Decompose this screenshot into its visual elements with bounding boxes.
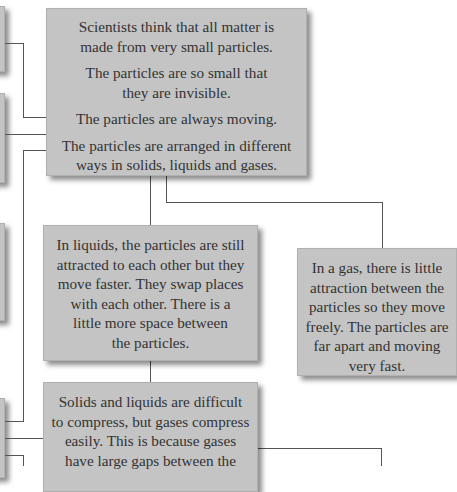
connector-main-to-left — [23, 150, 24, 422]
text-line: made from very small particles. — [80, 38, 273, 55]
connector-compress-to-right — [257, 448, 381, 449]
text-line: Scientists think that all matter is — [79, 18, 274, 35]
text-line: to compress, but gases compress — [44, 412, 257, 432]
connector-compress-to-right — [381, 448, 382, 466]
text-line: The particles are so small that — [86, 64, 268, 81]
main-paragraph-4: The particles are arranged in different … — [47, 136, 306, 175]
connector-liquids-to-compress — [150, 360, 151, 382]
text-line: The particles are arranged in different — [62, 137, 292, 154]
text-line: move faster. They swap places — [44, 274, 257, 294]
connector-compress-to-left-lower — [5, 455, 24, 456]
partial-box-left-2 — [0, 93, 5, 183]
text-line: very fast. — [298, 356, 456, 376]
text-line: ways in solids, liquids and gases. — [76, 156, 277, 173]
connector-left1-to-main — [5, 43, 24, 44]
connector-main-to-left — [5, 421, 24, 422]
connector-left2-to-main — [5, 134, 46, 135]
text-line: The particles are always moving. — [76, 110, 277, 127]
text-line: In a gas, there is little — [298, 258, 456, 278]
connector-main-to-gas — [166, 202, 383, 203]
compress-box: Solids and liquids are difficult to comp… — [43, 382, 258, 492]
liquids-box: In liquids, the particles are still attr… — [43, 225, 258, 361]
partial-box-left-3 — [0, 223, 5, 321]
text-line: with each other. There is a — [44, 294, 257, 314]
text-line: have large gaps between the — [44, 451, 257, 471]
connector-main-to-liquids — [150, 175, 151, 225]
text-line: attracted to each other but they — [44, 255, 257, 275]
main-paragraph-3: The particles are always moving. — [47, 109, 306, 129]
connector-compress-to-left-lower — [23, 455, 24, 466]
gas-box: In a gas, there is little attraction bet… — [297, 248, 457, 376]
connector-main-to-left — [23, 150, 46, 151]
main-concept-box: Scientists think that all matter is made… — [46, 8, 307, 176]
partial-box-left-1 — [0, 6, 5, 72]
main-paragraph-2: The particles are so small that they are… — [47, 63, 306, 102]
text-line: freely. The particles are — [298, 317, 456, 337]
text-line: particles so they move — [298, 297, 456, 317]
text-line: In liquids, the particles are still — [44, 235, 257, 255]
text-line: little more space between — [44, 313, 257, 333]
text-line: attraction between the — [298, 278, 456, 298]
connector-left1-to-main — [23, 117, 46, 118]
connector-left1-to-main — [23, 43, 24, 118]
connector-compress-to-left — [5, 438, 43, 439]
connector-main-to-gas — [166, 175, 167, 202]
main-paragraph-1: Scientists think that all matter is made… — [47, 17, 306, 56]
text-line: the particles. — [44, 333, 257, 353]
text-line: they are invisible. — [122, 84, 230, 101]
text-line: Solids and liquids are difficult — [44, 392, 257, 412]
text-line: easily. This is because gases — [44, 431, 257, 451]
connector-main-to-gas — [382, 202, 383, 248]
text-line: far apart and moving — [298, 336, 456, 356]
